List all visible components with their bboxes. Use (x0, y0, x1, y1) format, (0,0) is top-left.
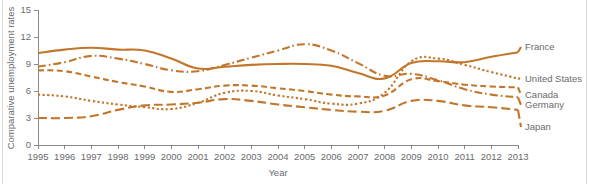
y-tick-label: 6 (26, 85, 31, 96)
x-tick-label: 1998 (107, 151, 128, 162)
x-tick-label: 2012 (481, 151, 502, 162)
series-line-france (38, 48, 518, 79)
legend-leader-france (518, 47, 521, 52)
series-lines (38, 44, 518, 118)
y-tick-label: 9 (26, 58, 31, 69)
x-tick-label: 2013 (507, 151, 528, 162)
y-tick-label: 12 (20, 31, 31, 42)
x-axis-ticks: 1995199619971998199920002001200220032004… (27, 145, 528, 162)
x-tick-label: 2011 (454, 151, 474, 162)
chart-figure: Comparative unemployment rates Year 0369… (0, 0, 589, 184)
x-tick-label: 2007 (347, 151, 368, 162)
legend-label-united-states: United States (525, 73, 582, 84)
x-tick-label: 2001 (187, 151, 208, 162)
series-line-japan (38, 99, 518, 118)
x-tick-label: 1997 (81, 151, 102, 162)
x-tick-label: 2002 (214, 151, 235, 162)
x-tick-label: 2008 (374, 151, 395, 162)
x-tick-label: 1996 (54, 151, 75, 162)
chart-legend: FranceUnited StatesCanadaGermanyJapan (518, 41, 582, 132)
x-tick-label: 1995 (27, 151, 48, 162)
legend-label-france: France (525, 41, 555, 52)
y-axis-label: Comparative unemployment rates (5, 6, 16, 149)
legend-leader-japan (518, 110, 521, 127)
legend-label-germany: Germany (525, 99, 564, 110)
line-chart-plot: Comparative unemployment rates Year 0369… (0, 0, 589, 184)
y-tick-label: 15 (20, 4, 31, 15)
x-axis-label: Year (268, 167, 287, 178)
x-tick-label: 2003 (241, 151, 262, 162)
x-tick-label: 2006 (321, 151, 342, 162)
legend-label-japan: Japan (525, 121, 551, 132)
legend-leader-united-states (518, 78, 521, 79)
y-tick-label: 3 (26, 112, 31, 123)
legend-leader-germany (518, 97, 521, 105)
x-tick-label: 2009 (401, 151, 422, 162)
x-tick-label: 2004 (267, 151, 288, 162)
x-tick-label: 2010 (427, 151, 448, 162)
x-tick-label: 2000 (161, 151, 182, 162)
x-tick-label: 2005 (294, 151, 315, 162)
y-tick-label: 0 (26, 139, 31, 150)
y-axis-ticks: 03691215 (20, 4, 38, 150)
legend-leader-canada (518, 87, 521, 95)
series-line-canada (38, 70, 518, 97)
x-tick-label: 1999 (134, 151, 155, 162)
series-line-germany (38, 44, 518, 97)
